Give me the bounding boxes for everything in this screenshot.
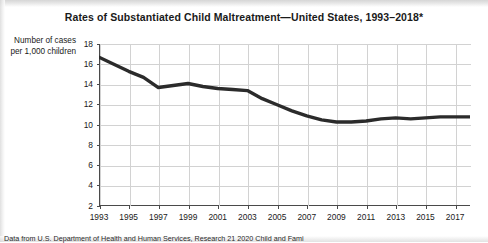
x-axis-tick-label: 2017 xyxy=(438,212,472,222)
x-axis-tick-mark xyxy=(337,205,338,209)
gridline-vertical xyxy=(337,44,338,206)
x-axis-tick-mark xyxy=(159,205,160,209)
x-axis-tick-mark xyxy=(307,205,308,209)
y-axis-tick-label: 18 xyxy=(59,39,93,49)
gridline-horizontal xyxy=(100,166,471,167)
gridline-vertical xyxy=(397,44,398,206)
y-axis-tick-label: 2 xyxy=(59,201,93,211)
gridline-vertical xyxy=(248,44,249,206)
x-axis-tick-mark xyxy=(129,205,130,209)
source-note: Data from U.S. Department of Health and … xyxy=(4,234,488,243)
x-axis-tick-mark xyxy=(278,205,279,209)
y-axis-tick-label: 16 xyxy=(59,59,93,69)
y-axis-tick-label: 4 xyxy=(59,180,93,190)
plot-area xyxy=(99,44,470,206)
gridline-vertical xyxy=(367,44,368,206)
x-axis-tick-mark xyxy=(396,205,397,209)
gridline-horizontal xyxy=(100,64,471,65)
gridline-vertical xyxy=(456,44,457,206)
gridline-vertical xyxy=(278,44,279,206)
gridline-horizontal xyxy=(100,145,471,146)
gridline-vertical xyxy=(159,44,160,206)
gridline-horizontal xyxy=(100,85,471,86)
y-axis-tick-label: 14 xyxy=(59,79,93,89)
chart-title: Rates of Substantiated Child Maltreatmen… xyxy=(0,11,488,23)
gridline-vertical xyxy=(426,44,427,206)
x-axis-tick-mark xyxy=(218,205,219,209)
gridline-vertical xyxy=(219,44,220,206)
y-axis-tick-label: 6 xyxy=(59,160,93,170)
gridline-vertical xyxy=(308,44,309,206)
x-axis-tick-mark xyxy=(189,205,190,209)
y-axis-tick-label: 12 xyxy=(59,99,93,109)
gridline-vertical xyxy=(130,44,131,206)
gridline-horizontal xyxy=(100,44,471,45)
y-axis-tick-label: 10 xyxy=(59,120,93,130)
x-axis-tick-mark xyxy=(426,205,427,209)
x-axis-tick-mark xyxy=(100,205,101,209)
x-axis-tick-mark xyxy=(248,205,249,209)
x-axis-tick-mark xyxy=(367,205,368,209)
gridline-vertical xyxy=(100,44,101,206)
gridline-horizontal xyxy=(100,125,471,126)
gridline-horizontal xyxy=(100,186,471,187)
gridline-vertical xyxy=(189,44,190,206)
x-axis-tick-mark xyxy=(456,205,457,209)
y-axis-tick-label: 8 xyxy=(59,140,93,150)
gridline-horizontal xyxy=(100,105,471,106)
scan-artifact-top-band xyxy=(0,0,488,7)
